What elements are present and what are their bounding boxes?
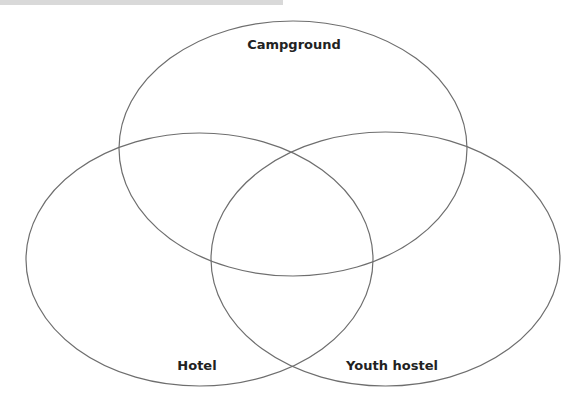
- campground-circle: [119, 21, 467, 276]
- hotel-circle: [26, 133, 373, 386]
- hotel-label: Hotel: [177, 358, 216, 374]
- youth-hostel-label: Youth hostel: [346, 358, 438, 374]
- venn-diagram: [0, 0, 576, 402]
- campground-label: Campground: [247, 37, 341, 53]
- venn-diagram-canvas: Campground Hotel Youth hostel: [0, 0, 576, 402]
- youth-hostel-circle: [211, 132, 560, 386]
